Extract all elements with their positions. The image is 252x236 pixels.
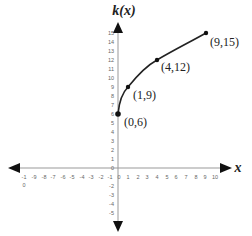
y-axis-down-arrow-icon [113, 221, 123, 232]
x-tick: -8 [42, 174, 47, 180]
y-tick: 14 [108, 39, 114, 45]
y-tick: 8 [111, 93, 114, 99]
y-tick: -4 [109, 201, 114, 207]
x-tick: 3 [145, 174, 148, 180]
x-tick: -5 [70, 174, 75, 180]
point-9-15 [204, 31, 208, 35]
point-label-0-6: (0,6) [124, 115, 147, 129]
x-tick: -1 [22, 174, 27, 180]
y-tick: 6 [111, 111, 114, 117]
x-tick: 10 [212, 174, 218, 180]
y-tick: 11 [108, 66, 114, 72]
x-tick: -3 [89, 174, 94, 180]
x-tick: 1 [126, 174, 129, 180]
y-tick: 12 [108, 57, 114, 63]
x-tick-labels: -1 0 -9 -8 -7 -6 -5 -4 -3 -2 -1 0 1 2 3 … [22, 174, 219, 188]
x-tick: -6 [61, 174, 66, 180]
y-tick: 3 [111, 138, 114, 144]
y-tick: -3 [109, 192, 114, 198]
y-tick: 7 [111, 102, 114, 108]
y-tick: 0 [111, 165, 114, 171]
x-tick: 4 [155, 174, 158, 180]
y-axis-title: k(x) [112, 3, 135, 19]
x-axis-left-arrow-icon [8, 163, 20, 173]
x-tick: -7 [51, 174, 56, 180]
point-label-4-12: (4,12) [161, 60, 190, 74]
y-tick: -5 [109, 210, 114, 216]
y-tick: 15 [108, 30, 114, 36]
x-tick: 2 [136, 174, 139, 180]
x-axis-right-arrow-icon [220, 163, 232, 173]
x-tick: -9 [32, 174, 37, 180]
x-tick: 5 [165, 174, 168, 180]
point-label-9-15: (9,15) [210, 35, 239, 49]
point-label-1-9: (1,9) [133, 88, 156, 102]
y-tick: 5 [111, 120, 114, 126]
y-tick: 1 [111, 156, 114, 162]
x-axis-title: x [234, 160, 242, 175]
x-tick: -1 [108, 174, 113, 180]
y-axis-up-arrow-icon [113, 22, 123, 33]
y-tick: 10 [108, 75, 114, 81]
y-tick: 13 [108, 48, 114, 54]
x-tick: 6 [174, 174, 177, 180]
y-tick: -2 [109, 183, 114, 189]
chart-canvas: 15 14 13 12 11 10 9 8 7 6 5 4 3 2 1 0 -2… [0, 0, 252, 236]
x-tick: 0 [117, 174, 120, 180]
y-tick: 4 [111, 129, 114, 135]
y-tick-labels: 15 14 13 12 11 10 9 8 7 6 5 4 3 2 1 0 -2… [108, 30, 114, 216]
x-tick: 8 [194, 174, 197, 180]
x-tick: 7 [184, 174, 187, 180]
axes [8, 22, 232, 232]
x-tick: -4 [80, 174, 85, 180]
point-1-9 [126, 85, 130, 89]
y-tick: 2 [111, 147, 114, 153]
y-tick: 9 [111, 84, 114, 90]
point-0-6 [115, 111, 121, 117]
x-tick: -2 [99, 174, 104, 180]
x-tick: 9 [203, 174, 206, 180]
point-4-12 [155, 58, 159, 62]
x-tick: 0 [22, 182, 25, 188]
